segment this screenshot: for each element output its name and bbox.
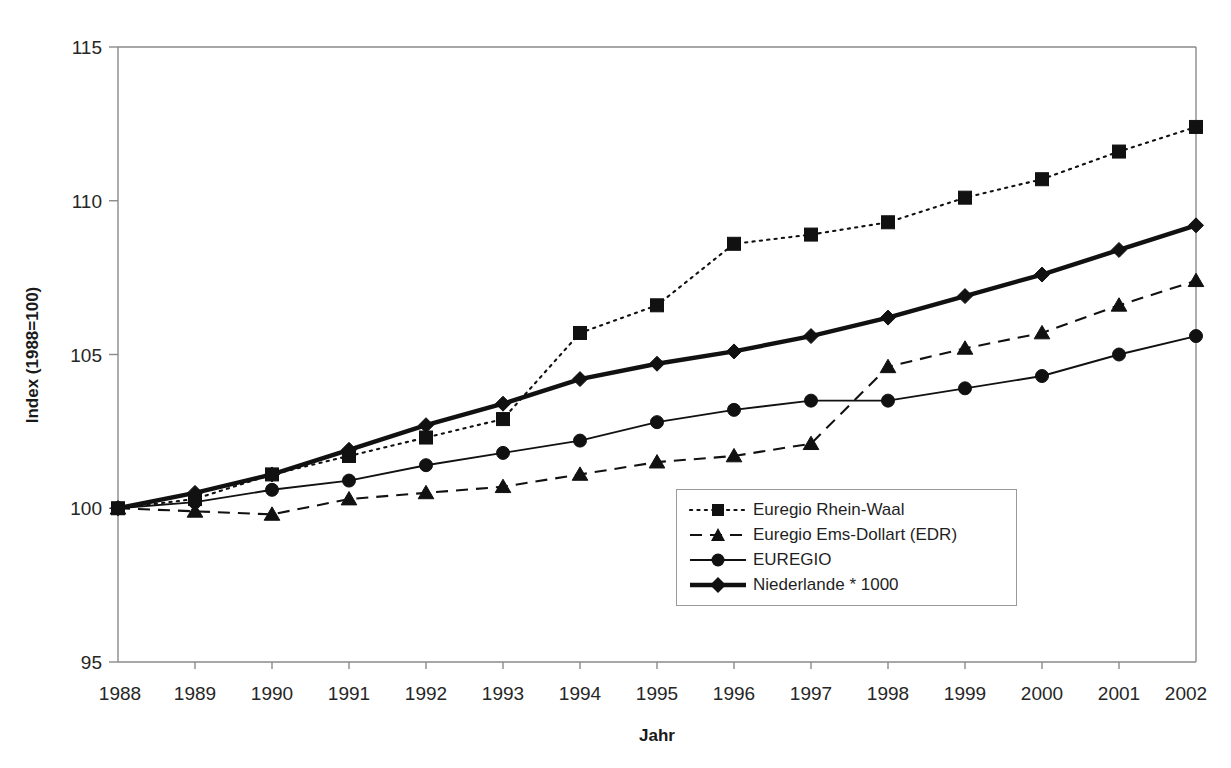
data-point-circle — [420, 459, 433, 472]
data-point-diamond — [1189, 218, 1204, 233]
x-tick-label: 1994 — [559, 683, 602, 704]
data-point-diamond — [496, 396, 511, 411]
x-axis-title: Jahr — [639, 726, 675, 745]
y-tick-label: 105 — [70, 345, 102, 366]
data-point-circle — [728, 403, 741, 416]
data-point-circle — [574, 434, 587, 447]
legend-label-ems-dollart: Euregio Ems-Dollart (EDR) — [753, 525, 957, 545]
data-point-square — [1113, 145, 1126, 158]
series-line — [118, 281, 1196, 515]
data-series — [110, 120, 1204, 520]
legend-item-ems-dollart: Euregio Ems-Dollart (EDR) — [689, 522, 1004, 547]
data-point-circle — [266, 483, 279, 496]
data-point-diamond — [650, 356, 665, 371]
data-point-circle — [497, 446, 510, 459]
y-axis-title: Index (1988=100) — [23, 287, 42, 424]
data-point-diamond — [573, 372, 588, 387]
data-point-square — [805, 228, 818, 241]
chart-figure: 95100105110115 1988198919901991199219931… — [0, 0, 1231, 768]
x-tick-label: 1992 — [405, 683, 447, 704]
data-point-triangle — [495, 479, 511, 492]
legend-label-niederlande: Niederlande * 1000 — [753, 575, 899, 595]
data-point-square — [574, 326, 587, 339]
series-niederlande-1000 — [111, 218, 1204, 516]
data-point-triangle — [880, 359, 896, 372]
legend-label-rhein-waal: Euregio Rhein-Waal — [753, 500, 905, 520]
x-tick-label: 2001 — [1098, 683, 1140, 704]
data-point-circle — [1036, 370, 1049, 383]
data-point-square — [651, 299, 664, 312]
data-point-circle — [1190, 330, 1203, 343]
data-point-square — [882, 216, 895, 229]
legend-item-euregio: EUREGIO — [689, 547, 1004, 572]
data-point-square — [1036, 173, 1049, 186]
legend-key-euregio — [689, 550, 747, 570]
data-point-triangle — [1111, 298, 1127, 311]
x-tick-label: 1988 — [99, 683, 141, 704]
legend-key-niederlande — [689, 575, 747, 595]
x-tick-label: 1998 — [867, 683, 909, 704]
series-line — [118, 127, 1196, 508]
data-point-diamond — [804, 329, 819, 344]
legend-label-euregio: EUREGIO — [753, 550, 831, 570]
legend-item-rhein-waal: Euregio Rhein-Waal — [689, 497, 1004, 522]
legend-item-niederlande: Niederlande * 1000 — [689, 572, 1004, 597]
y-axis-ticks: 95100105110115 — [70, 37, 118, 673]
legend-key-ems-dollart — [689, 525, 747, 545]
data-point-circle — [805, 394, 818, 407]
data-point-square — [728, 237, 741, 250]
data-point-diamond — [1112, 242, 1127, 257]
data-point-circle — [343, 474, 356, 487]
y-tick-label: 100 — [70, 498, 102, 519]
data-point-circle — [959, 382, 972, 395]
axes — [118, 47, 1196, 662]
x-tick-label: 1991 — [328, 683, 370, 704]
x-tick-label: 1999 — [944, 683, 986, 704]
data-point-diamond — [419, 418, 434, 433]
chart-canvas: 95100105110115 1988198919901991199219931… — [0, 0, 1231, 768]
data-point-circle — [1113, 348, 1126, 361]
x-tick-label: 2002 — [1165, 683, 1207, 704]
data-point-diamond — [1035, 267, 1050, 282]
data-point-triangle — [341, 491, 357, 504]
x-tick-label: 1996 — [713, 683, 755, 704]
y-tick-label: 110 — [72, 191, 102, 212]
data-point-square — [959, 191, 972, 204]
data-point-triangle — [1188, 273, 1204, 286]
x-tick-label: 1990 — [251, 683, 293, 704]
data-point-triangle — [1034, 325, 1050, 338]
y-tick-label: 95 — [81, 652, 102, 673]
data-point-diamond — [881, 310, 896, 325]
data-point-diamond — [958, 289, 973, 304]
data-point-square — [497, 413, 510, 426]
y-tick-label: 115 — [72, 37, 102, 58]
legend: Euregio Rhein-Waal Euregio Ems-Dollart (… — [676, 489, 1017, 606]
x-tick-label: 1997 — [790, 683, 832, 704]
data-point-circle — [882, 394, 895, 407]
data-point-square — [1190, 120, 1203, 133]
x-tick-label: 1989 — [174, 683, 216, 704]
data-point-circle — [651, 416, 664, 429]
data-point-diamond — [727, 344, 742, 359]
x-tick-label: 1995 — [636, 683, 678, 704]
x-axis-ticks: 1988198919901991199219931994199519961997… — [99, 662, 1207, 704]
x-tick-label: 2000 — [1021, 683, 1063, 704]
legend-key-rhein-waal — [689, 500, 747, 520]
data-point-triangle — [418, 485, 434, 498]
x-tick-label: 1993 — [482, 683, 524, 704]
